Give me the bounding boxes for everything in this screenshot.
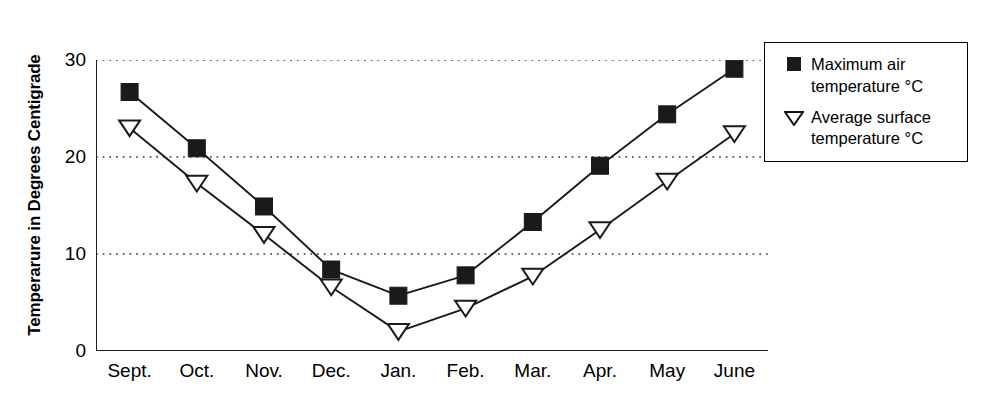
- plot-svg: [96, 60, 768, 351]
- plot-area: [96, 60, 768, 351]
- legend-item-0: Maximum airtemperature °C: [777, 54, 957, 98]
- y-axis-tick-labels: 0102030: [30, 0, 86, 419]
- legend-item-1: Average surfacetemperature °C: [777, 107, 957, 151]
- legend-open-triangle-icon: [777, 107, 811, 130]
- x-tick-label-1: Oct.: [163, 360, 230, 392]
- series-line-0: [130, 69, 735, 296]
- y-tick-label-0: 0: [40, 341, 86, 360]
- axis-lines: [96, 60, 768, 351]
- filled-square-icon: [787, 57, 801, 71]
- data-point: [592, 157, 609, 174]
- x-tick-label-7: Apr.: [566, 360, 633, 392]
- data-point: [121, 84, 138, 101]
- series-lines: [130, 69, 735, 332]
- data-point: [455, 301, 476, 317]
- legend-label-0: Maximum airtemperature °C: [811, 54, 923, 98]
- data-point: [323, 261, 340, 278]
- legend-filled-square-icon: [777, 54, 811, 77]
- legend-label-line1: Average surface: [811, 107, 931, 129]
- data-point: [726, 60, 743, 77]
- data-point: [388, 324, 409, 340]
- x-tick-label-6: Mar.: [499, 360, 566, 392]
- axis-ticks: [96, 60, 768, 351]
- x-tick-label-2: Nov.: [230, 360, 297, 392]
- x-axis-tick-labels: Sept.Oct.Nov.Dec.Jan.Feb.Mar.Apr.MayJune: [96, 360, 768, 392]
- legend-label-line1: Maximum air: [811, 54, 923, 76]
- series-line-1: [130, 128, 735, 332]
- x-tick-label-8: May: [634, 360, 701, 392]
- temperature-line-chart: Temperarure in Degrees Centigrade 010203…: [0, 0, 982, 419]
- y-tick-label-20: 20: [40, 147, 86, 166]
- data-point: [188, 140, 205, 157]
- x-tick-label-0: Sept.: [96, 360, 163, 392]
- data-point: [522, 269, 543, 285]
- legend-label-1: Average surfacetemperature °C: [811, 107, 931, 151]
- chart-legend: Maximum airtemperature °CAverage surface…: [764, 42, 968, 162]
- x-tick-label-5: Feb.: [432, 360, 499, 392]
- x-tick-label-9: June: [701, 360, 768, 392]
- data-point: [659, 106, 676, 123]
- legend-label-line2: temperature °C: [811, 76, 923, 98]
- x-tick-label-3: Dec.: [298, 360, 365, 392]
- y-tick-label-30: 30: [40, 50, 86, 69]
- x-tick-label-4: Jan.: [365, 360, 432, 392]
- data-point: [390, 287, 407, 304]
- open-down-triangle-icon: [784, 110, 804, 126]
- data-point: [256, 198, 273, 215]
- series-markers: [119, 60, 745, 340]
- data-point: [524, 213, 541, 230]
- data-point: [457, 267, 474, 284]
- y-tick-label-10: 10: [40, 244, 86, 263]
- legend-label-line2: temperature °C: [811, 128, 931, 150]
